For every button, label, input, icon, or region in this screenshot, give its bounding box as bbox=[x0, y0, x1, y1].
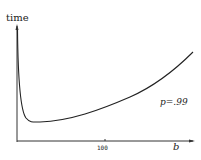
annotation: p=.99 bbox=[160, 97, 188, 107]
x-tick-label: 100 bbox=[97, 144, 108, 151]
chart bbox=[0, 0, 201, 160]
y-axis-label: time bbox=[6, 12, 29, 23]
x-axis-arrow-icon bbox=[189, 140, 195, 143]
x-axis-label: b bbox=[173, 141, 179, 152]
y-axis-arrow-icon bbox=[16, 24, 19, 30]
data-line bbox=[18, 30, 194, 122]
